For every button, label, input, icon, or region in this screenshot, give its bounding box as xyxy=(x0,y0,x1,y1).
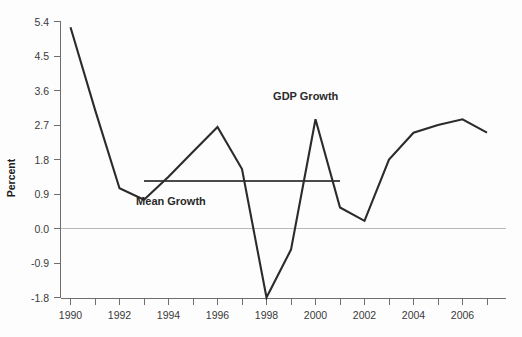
gdp-growth-annotation: GDP Growth xyxy=(273,90,338,102)
x-tick-label: 2006 xyxy=(451,309,475,321)
x-tick-label: 1998 xyxy=(255,309,279,321)
x-tick-label: 2004 xyxy=(402,309,426,321)
y-tick-label: -0.9 xyxy=(31,257,49,269)
y-axis-tick-labels: 5.4 4.5 3.6 2.7 1.8 0.9 0.0 -0.9 -1.8 xyxy=(31,16,49,304)
x-tick-label: 2000 xyxy=(304,309,328,321)
x-axis-tick-labels: 1990 1992 1994 1996 1998 2000 2002 2004 … xyxy=(59,309,475,321)
y-tick-label: 0.9 xyxy=(34,188,49,200)
x-axis-ticks xyxy=(71,299,488,305)
x-tick-label: 2002 xyxy=(353,309,377,321)
y-axis-ticks xyxy=(54,22,60,298)
y-tick-label: 3.6 xyxy=(34,85,49,97)
gdp-growth-series-line xyxy=(71,27,488,297)
y-tick-label: 1.8 xyxy=(34,154,49,166)
y-tick-label: 4.5 xyxy=(34,50,49,62)
x-tick-label: 1996 xyxy=(206,309,230,321)
y-axis-title: Percent xyxy=(5,158,17,197)
mean-growth-annotation: Mean Growth xyxy=(136,195,206,207)
y-tick-label: -1.8 xyxy=(31,292,49,304)
y-tick-label: 0.0 xyxy=(34,223,49,235)
gdp-growth-chart: 5.4 4.5 3.6 2.7 1.8 0.9 0.0 -0.9 -1.8 Pe… xyxy=(0,0,522,337)
x-tick-label: 1994 xyxy=(157,309,181,321)
y-tick-label: 5.4 xyxy=(34,16,49,28)
chart-canvas: 5.4 4.5 3.6 2.7 1.8 0.9 0.0 -0.9 -1.8 Pe… xyxy=(0,0,522,337)
x-tick-label: 1992 xyxy=(108,309,132,321)
x-tick-label: 1990 xyxy=(59,309,83,321)
y-tick-label: 2.7 xyxy=(34,119,49,131)
